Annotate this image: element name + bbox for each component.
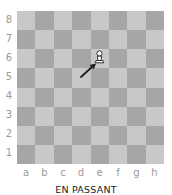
square-e5 [91, 68, 109, 87]
file-label: d [72, 167, 90, 178]
square-e8 [91, 11, 109, 30]
square-g5 [127, 68, 145, 87]
rank-label: 1 [4, 147, 14, 158]
square-b8 [35, 11, 53, 30]
rank-label: 6 [4, 52, 14, 63]
diagram-caption: EN PASSANT [0, 184, 172, 195]
square-g1 [127, 145, 145, 164]
file-label: c [54, 167, 72, 178]
square-d1 [72, 145, 90, 164]
square-a4 [17, 88, 35, 107]
square-f8 [109, 11, 127, 30]
square-h4 [146, 88, 164, 107]
square-h2 [146, 126, 164, 145]
square-b6 [35, 49, 53, 68]
square-c8 [54, 11, 72, 30]
square-a6 [17, 49, 35, 68]
square-d5 [72, 68, 90, 87]
square-d6 [72, 49, 90, 68]
chess-board [17, 11, 164, 164]
square-b4 [35, 88, 53, 107]
rank-label: 5 [4, 71, 14, 82]
rank-label: 8 [4, 14, 14, 25]
square-a7 [17, 30, 35, 49]
square-g6 [127, 49, 145, 68]
square-e7 [91, 30, 109, 49]
square-b1 [35, 145, 53, 164]
square-e3 [91, 107, 109, 126]
square-f3 [109, 107, 127, 126]
square-d7 [72, 30, 90, 49]
square-e1 [91, 145, 109, 164]
file-label: e [91, 167, 109, 178]
square-e6 [91, 49, 109, 68]
file-label: f [109, 167, 127, 178]
square-d3 [72, 107, 90, 126]
square-c3 [54, 107, 72, 126]
rank-label: 3 [4, 109, 14, 120]
square-c6 [54, 49, 72, 68]
file-label: a [17, 167, 35, 178]
rank-label: 7 [4, 33, 14, 44]
square-c2 [54, 126, 72, 145]
square-c1 [54, 145, 72, 164]
square-h8 [146, 11, 164, 30]
square-b3 [35, 107, 53, 126]
square-h6 [146, 49, 164, 68]
square-g8 [127, 11, 145, 30]
square-f7 [109, 30, 127, 49]
square-b7 [35, 30, 53, 49]
rank-label: 4 [4, 90, 14, 101]
square-a5 [17, 68, 35, 87]
square-d2 [72, 126, 90, 145]
square-h5 [146, 68, 164, 87]
square-g2 [127, 126, 145, 145]
square-h7 [146, 30, 164, 49]
square-c5 [54, 68, 72, 87]
file-label: g [128, 167, 146, 178]
file-label: b [36, 167, 54, 178]
square-b5 [35, 68, 53, 87]
square-a3 [17, 107, 35, 126]
square-f1 [109, 145, 127, 164]
square-g7 [127, 30, 145, 49]
square-f4 [109, 88, 127, 107]
square-e4 [91, 88, 109, 107]
square-a8 [17, 11, 35, 30]
square-c7 [54, 30, 72, 49]
square-c4 [54, 88, 72, 107]
square-f2 [109, 126, 127, 145]
square-g4 [127, 88, 145, 107]
square-g3 [127, 107, 145, 126]
square-b2 [35, 126, 53, 145]
rank-label: 2 [4, 128, 14, 139]
square-d4 [72, 88, 90, 107]
square-a1 [17, 145, 35, 164]
square-f5 [109, 68, 127, 87]
square-e2 [91, 126, 109, 145]
square-a2 [17, 126, 35, 145]
square-h1 [146, 145, 164, 164]
square-d8 [72, 11, 90, 30]
square-f6 [109, 49, 127, 68]
square-h3 [146, 107, 164, 126]
file-label: h [146, 167, 164, 178]
